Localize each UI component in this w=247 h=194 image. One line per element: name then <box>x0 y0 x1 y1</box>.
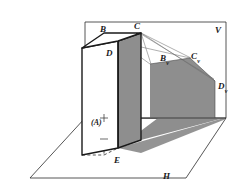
label-vertex-d: D <box>106 49 113 58</box>
label-vertex-c: C <box>134 22 140 31</box>
label-shadow-cv-subscript: v <box>197 58 200 64</box>
label-plane-v: V <box>215 26 221 35</box>
figure-canvas <box>0 0 247 194</box>
label-shadow-cv: Cv <box>191 52 200 63</box>
prism-right-face <box>118 33 141 148</box>
label-plane-h: H <box>163 172 170 181</box>
descriptive-geometry-figure: B C D E (A) Bv Cv Dv V H <box>0 0 247 194</box>
label-shadow-bv-subscript: v <box>166 60 169 66</box>
label-shadow-dv-letter: D <box>218 81 225 91</box>
label-shadow-bv: Bv <box>160 54 169 65</box>
label-shadow-dv: Dv <box>218 82 227 93</box>
label-vertex-e: E <box>114 156 120 165</box>
prism-front-face <box>82 41 118 155</box>
label-vertex-b: B <box>100 25 106 34</box>
label-vertex-a-hidden: (A) <box>91 119 102 127</box>
